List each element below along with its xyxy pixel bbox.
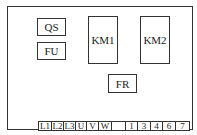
terminal-w: W xyxy=(99,122,112,130)
component-km1-label: KM1 xyxy=(91,34,114,46)
terminal-7: 7 xyxy=(176,122,189,130)
component-km2: KM2 xyxy=(140,16,170,64)
component-km2-label: KM2 xyxy=(143,34,166,46)
component-fu: FU xyxy=(37,42,66,60)
component-km1: KM1 xyxy=(88,16,118,64)
terminal-strip: L1 L2 L3 U V W 1 3 4 6 7 xyxy=(38,121,190,131)
terminal-6: 6 xyxy=(163,122,176,130)
terminal-l3: L3 xyxy=(64,122,76,130)
component-fu-label: FU xyxy=(44,45,58,57)
terminal-blank xyxy=(112,122,126,130)
terminal-4: 4 xyxy=(151,122,163,130)
component-fr-label: FR xyxy=(116,78,129,90)
terminal-u: U xyxy=(76,122,87,130)
terminal-3: 3 xyxy=(138,122,151,130)
terminal-l1: L1 xyxy=(39,122,52,130)
component-qs-label: QS xyxy=(44,21,58,33)
component-fr: FR xyxy=(108,74,137,93)
terminal-1: 1 xyxy=(126,122,138,130)
terminal-v: V xyxy=(87,122,99,130)
component-qs: QS xyxy=(37,18,66,36)
terminal-l2: L2 xyxy=(52,122,64,130)
